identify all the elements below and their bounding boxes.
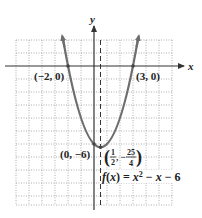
svg-text:1: 1: [111, 148, 115, 157]
vertex-label: ( 1 2 , − 25 4 ): [104, 147, 142, 168]
y-intercept-label: (0, −6): [60, 148, 90, 161]
curve-arrow-right: [137, 36, 139, 47]
root-right-label: (3, 0): [136, 70, 160, 83]
svg-text:2: 2: [111, 158, 115, 167]
point-root-right: [131, 64, 135, 68]
svg-text:): ): [136, 147, 142, 168]
y-axis-label: y: [88, 13, 95, 25]
root-left-label: (−2, 0): [34, 70, 64, 83]
svg-text:25: 25: [127, 148, 135, 157]
x-axis-label: x: [187, 60, 194, 72]
curve-arrow-left: [62, 36, 64, 47]
point-vertex: [99, 146, 103, 150]
parabola-graph: y x (−2, 0) (3, 0) (0, −6) ( 1 2 , − 25 …: [0, 0, 202, 218]
svg-text:4: 4: [129, 159, 133, 168]
point-y-intercept: [92, 142, 96, 146]
svg-text:, −: , −: [116, 152, 126, 162]
svg-text:(: (: [104, 147, 110, 168]
point-root-left: [66, 64, 70, 68]
